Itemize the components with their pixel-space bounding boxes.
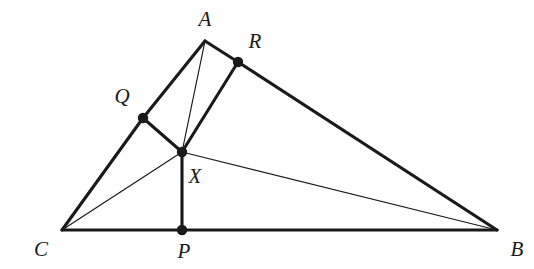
point-marker-X [177,147,187,157]
point-label-X: X [189,166,202,187]
segment-X-B [182,152,497,230]
point-label-C: C [34,239,48,260]
point-marker-Q [138,113,148,123]
segment-A-R [205,41,238,62]
point-label-Q: Q [114,86,129,107]
point-marker-P [177,225,187,235]
segments-layer [62,41,497,230]
point-label-B: B [511,239,524,260]
geometry-canvas [0,0,534,269]
segment-R-X [182,62,238,152]
segment-C-X [62,152,182,230]
point-label-R: R [249,31,262,52]
point-marker-R [233,57,243,67]
segment-Q-A [143,41,205,118]
segment-R-B [238,62,497,230]
segment-Q-X [143,118,182,152]
point-label-A: A [199,9,212,30]
point-label-P: P [178,241,191,262]
point-markers-layer [138,57,243,235]
geometry-figure: ABCPQRX [0,0,534,269]
segment-C-Q [62,118,143,230]
